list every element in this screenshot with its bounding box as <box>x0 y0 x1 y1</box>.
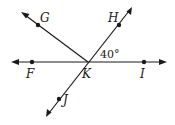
point-i <box>142 60 146 64</box>
arrowhead-left-icon <box>11 59 19 65</box>
point-j <box>57 97 61 101</box>
label-j: J <box>60 93 69 107</box>
arrowhead-right-icon <box>159 59 167 65</box>
label-f: F <box>25 67 35 81</box>
angle-label: 40° <box>100 48 120 61</box>
geometry-diagram: G H F K I J 40° <box>0 0 175 125</box>
label-k: K <box>81 67 92 81</box>
point-f <box>30 60 34 64</box>
label-i: I <box>139 67 145 81</box>
label-g: G <box>40 11 50 25</box>
label-h: H <box>107 11 119 25</box>
ray-kg <box>21 12 88 62</box>
